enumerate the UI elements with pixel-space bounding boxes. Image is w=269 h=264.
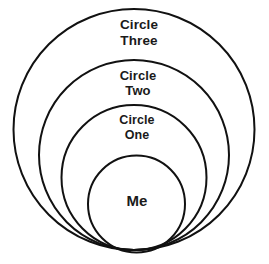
circle-outline-me [88, 156, 185, 253]
nested-circles-diagram: Circle Three Circle Two Circle One Me [0, 0, 269, 264]
circles-canvas [0, 0, 269, 264]
circle-outline-three [14, 9, 255, 250]
circle-outline-one [62, 105, 207, 250]
